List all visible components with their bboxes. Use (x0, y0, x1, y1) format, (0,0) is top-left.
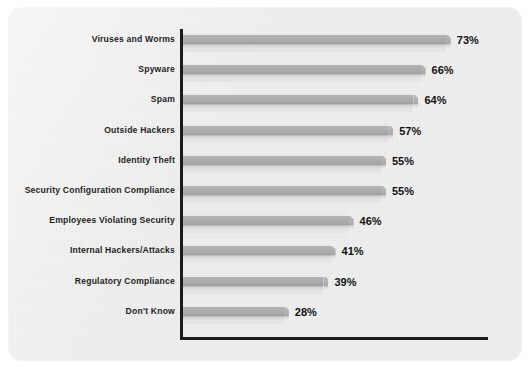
value-label: 41% (342, 245, 364, 257)
category-label: Spyware (0, 63, 175, 75)
bar-fill (183, 244, 331, 263)
value-label: 66% (432, 64, 454, 76)
category-label: Outside Hackers (0, 124, 175, 136)
bar-row: Viruses and Worms73% (0, 33, 530, 63)
bar-end-bevel (446, 33, 451, 52)
bar-end-bevel (413, 93, 418, 112)
bar-row: Don't Know28% (0, 305, 530, 335)
bar-fill (183, 93, 413, 112)
value-label: 73% (457, 34, 479, 46)
bar (183, 63, 421, 82)
category-label: Identity Theft (0, 154, 175, 166)
value-label: 46% (360, 215, 382, 227)
bar-row: Employees Violating Security46% (0, 214, 530, 244)
value-label: 39% (334, 276, 356, 288)
bar (183, 305, 284, 324)
bar-fill (183, 214, 349, 233)
bar-fill (183, 305, 284, 324)
bar (183, 184, 381, 203)
bar-fill (183, 33, 446, 52)
category-label: Don't Know (0, 305, 175, 317)
bar (183, 154, 381, 173)
bar-chart: Viruses and Worms73%Spyware66%Spam64%Out… (0, 0, 530, 369)
bar (183, 275, 323, 294)
bar (183, 244, 331, 263)
value-label: 57% (399, 125, 421, 137)
bar-row: Regulatory Compliance39% (0, 275, 530, 305)
bar-row: Outside Hackers57% (0, 124, 530, 154)
bar-end-bevel (349, 214, 354, 233)
bar (183, 93, 413, 112)
bar-row: Security Configuration Compliance55% (0, 184, 530, 214)
bar-row: Identity Theft55% (0, 154, 530, 184)
bar-row: Spyware66% (0, 63, 530, 93)
bar-row: Spam64% (0, 93, 530, 123)
bar-end-bevel (421, 63, 426, 82)
bar-fill (183, 124, 388, 143)
bar (183, 124, 388, 143)
bar-fill (183, 184, 381, 203)
value-label: 55% (392, 155, 414, 167)
value-label: 55% (392, 185, 414, 197)
bar (183, 33, 446, 52)
category-label: Regulatory Compliance (0, 275, 175, 287)
bar-fill (183, 275, 323, 294)
category-label: Employees Violating Security (0, 214, 175, 226)
bar-end-bevel (381, 154, 386, 173)
value-label: 28% (295, 306, 317, 318)
bar-end-bevel (284, 305, 289, 324)
bar (183, 214, 349, 233)
category-label: Viruses and Worms (0, 33, 175, 45)
category-label: Internal Hackers/Attacks (0, 244, 175, 256)
category-label: Security Configuration Compliance (0, 184, 175, 196)
bar-end-bevel (323, 275, 328, 294)
bar-end-bevel (381, 184, 386, 203)
bar-fill (183, 154, 381, 173)
chart-screenshot: Viruses and Worms73%Spyware66%Spam64%Out… (0, 0, 530, 369)
bar-row: Internal Hackers/Attacks41% (0, 244, 530, 274)
x-axis-line (180, 337, 488, 340)
category-label: Spam (0, 93, 175, 105)
bar-end-bevel (331, 244, 336, 263)
bar-end-bevel (388, 124, 393, 143)
value-label: 64% (424, 94, 446, 106)
bar-fill (183, 63, 421, 82)
